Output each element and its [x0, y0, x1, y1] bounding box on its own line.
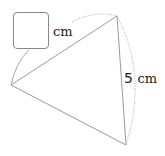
known-side-unit: cm: [137, 71, 157, 86]
known-side-value: 5: [124, 70, 133, 86]
answer-input-box[interactable]: [13, 12, 49, 49]
triangle-diagram: cm 5 cm: [0, 0, 165, 156]
known-side-label: 5 cm: [124, 70, 157, 86]
unknown-side-unit-label: cm: [53, 24, 73, 39]
arc-left-top: [11, 50, 29, 85]
